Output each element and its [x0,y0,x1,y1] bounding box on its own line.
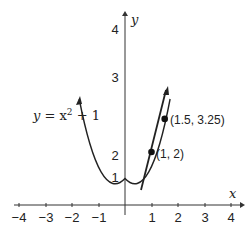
x-tick-label: 2 [174,210,181,225]
point-label-1.5-3.25: (1.5, 3.25) [170,113,225,127]
x-tick-labels: −4 −3 −2 −1 1 2 3 4 [12,210,235,225]
x-tick-label: −2 [65,210,80,225]
x-axis-arrow-icon [240,202,245,208]
x-tick-label: 1 [148,210,155,225]
x-tick-label: −3 [39,210,54,225]
curve-equation-label: y = x2 + 1 [32,107,100,123]
y-tick-label: 4 [111,22,118,37]
x-tick-label: 4 [227,210,234,225]
point-label-1-2: (1, 2) [156,147,184,161]
y-tick-label: 2 [111,148,118,163]
x-tick-label: 3 [201,210,208,225]
point-1.5-3.25 [161,116,168,123]
x-tick-label: −4 [12,210,27,225]
y-axis-arrow-icon [122,11,128,16]
point-1-2 [148,149,155,156]
line-arrow-icon [163,86,169,95]
y-tick-label: 3 [111,70,118,85]
x-axis-label: x [229,186,237,201]
secant-line [141,90,166,190]
y-tick-labels: 1 2 3 4 [111,22,118,185]
x-tick-label: −1 [92,210,107,225]
curve-arrow-icon [76,96,82,105]
chart: −4 −3 −2 −1 1 2 3 4 1 2 3 4 x y (1, 2) (… [0,0,248,237]
y-axis-label: y [130,12,139,27]
